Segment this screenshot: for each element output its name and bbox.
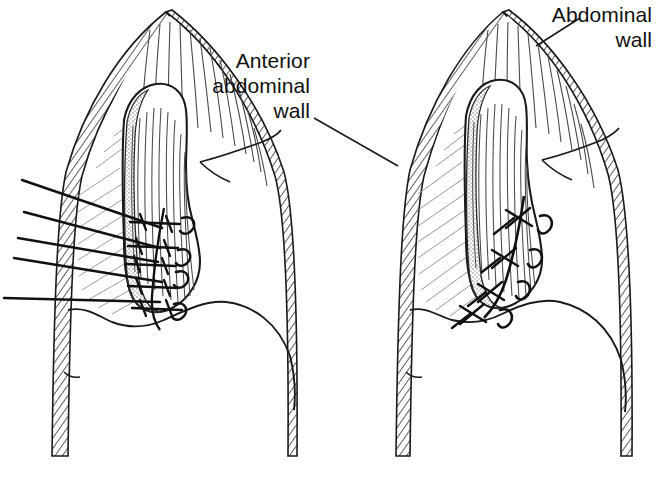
- label-abdominal-wall: Abdominal wall: [460, 2, 652, 52]
- surgical-repair-diagram: [0, 0, 657, 477]
- label-anterior-abdominal-wall: Anterior abdominal wall: [170, 48, 310, 123]
